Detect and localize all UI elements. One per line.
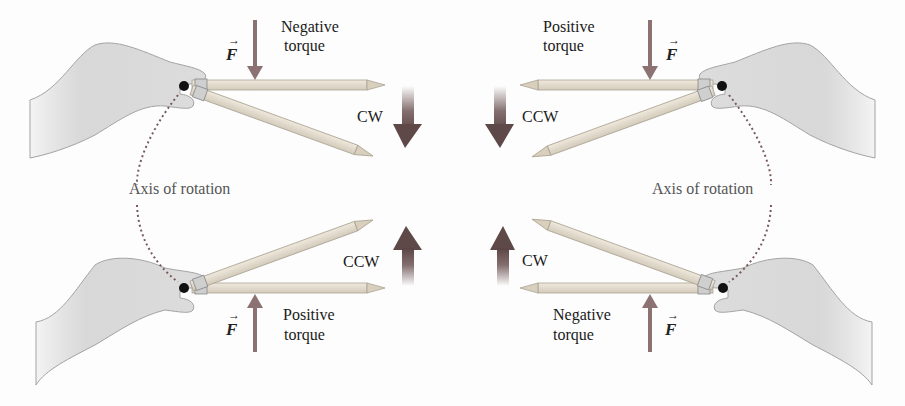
pencil-rotated bbox=[190, 84, 375, 161]
pencil-horizontal bbox=[520, 282, 713, 294]
force-arrow-up bbox=[642, 294, 658, 352]
hand-icon bbox=[702, 258, 872, 385]
vector-arrow: → bbox=[228, 308, 240, 322]
force-arrow-down bbox=[247, 20, 263, 80]
vector-arrow: → bbox=[668, 33, 680, 47]
torque-label-line2: torque bbox=[284, 326, 325, 344]
torque-label-line1: Negative bbox=[281, 18, 339, 36]
rotation-arrow-cw bbox=[393, 86, 422, 148]
hand-icon bbox=[30, 43, 206, 158]
pivot-point bbox=[718, 283, 728, 293]
pencil-horizontal bbox=[192, 282, 385, 294]
torque-label-line1: Positive bbox=[543, 18, 595, 35]
panel-top-right: F → Positive torque CCW bbox=[485, 18, 875, 162]
pivot-point bbox=[717, 81, 727, 91]
torque-sign-diagram: F → Negative torque CW F → Positive bbox=[0, 0, 905, 406]
torque-label-line1: Negative bbox=[553, 306, 611, 324]
hand-icon bbox=[36, 258, 206, 385]
axis-label: Axis of rotation bbox=[652, 180, 753, 197]
pencil-horizontal bbox=[520, 79, 713, 91]
pivot-point bbox=[179, 81, 189, 91]
rotation-arrow-cw bbox=[490, 226, 515, 286]
rotation-arrow-ccw bbox=[485, 86, 514, 148]
axis-of-rotation-right: Axis of rotation bbox=[652, 95, 771, 282]
force-label: F bbox=[225, 320, 238, 339]
force-arrow-down bbox=[642, 20, 658, 80]
vector-arrow: → bbox=[667, 308, 679, 322]
hand-icon bbox=[699, 43, 875, 158]
rotation-label: CW bbox=[522, 252, 549, 269]
rotation-label: CW bbox=[357, 108, 384, 125]
panel-bottom-right: F → Negative torque CW bbox=[490, 214, 872, 385]
axis-of-rotation-left: Axis of rotation bbox=[129, 95, 230, 282]
torque-label-line2: torque bbox=[284, 37, 325, 55]
rotation-label: CCW bbox=[522, 108, 559, 125]
torque-label-line1: Positive bbox=[283, 306, 335, 323]
force-label: F bbox=[665, 45, 678, 64]
panel-bottom-left: F → Positive torque CCW bbox=[36, 214, 422, 385]
force-arrow-up bbox=[247, 294, 263, 352]
panel-top-left: F → Negative torque CW bbox=[30, 18, 422, 162]
rotation-arrow-ccw bbox=[393, 226, 422, 286]
force-label: F bbox=[664, 320, 677, 339]
axis-label: Axis of rotation bbox=[129, 180, 230, 197]
diagram-canvas: F → Negative torque CW F → Positive bbox=[0, 0, 905, 406]
torque-label-line2: torque bbox=[543, 37, 584, 55]
torque-label-line2: torque bbox=[553, 326, 594, 344]
pencil-horizontal bbox=[192, 79, 385, 91]
rotation-label: CCW bbox=[343, 253, 380, 270]
force-label: F bbox=[225, 45, 238, 64]
vector-arrow: → bbox=[228, 33, 240, 47]
pencil-rotated bbox=[530, 214, 715, 291]
pivot-point bbox=[179, 283, 189, 293]
